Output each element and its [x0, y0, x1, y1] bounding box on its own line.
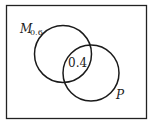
- intersection-label: 0.4: [68, 56, 87, 70]
- label-m-subscript: 0.6: [30, 28, 43, 37]
- venn-diagram: M 0.6 0.4 P: [0, 0, 150, 126]
- label-p: P: [115, 88, 125, 102]
